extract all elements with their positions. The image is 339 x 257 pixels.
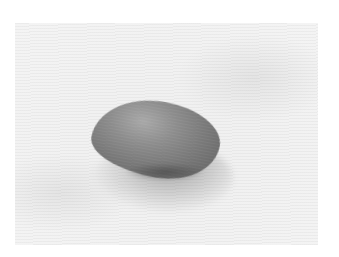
cloth-fold (175, 33, 318, 123)
stone-underside-shade (125, 163, 205, 181)
photograph (15, 23, 318, 245)
